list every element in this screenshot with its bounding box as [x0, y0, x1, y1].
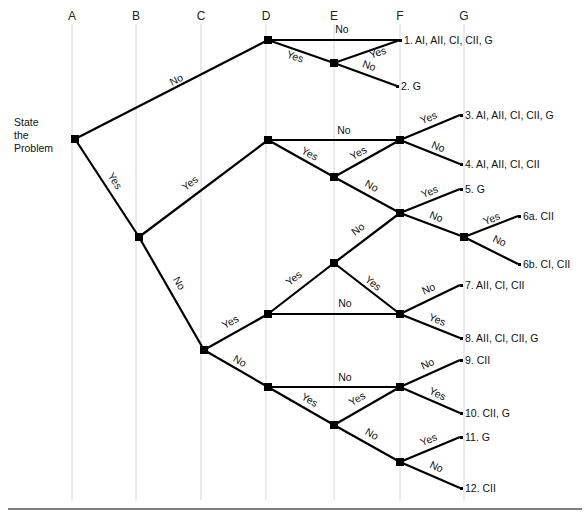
- decision-node-square-icon: [396, 209, 404, 217]
- decision-node-square-icon: [264, 383, 272, 391]
- leaf-endpoint: [460, 359, 463, 362]
- outcome-label: 3. AI, AII, CI, CII, G: [465, 109, 554, 121]
- leaf-endpoint: [399, 39, 402, 42]
- decision-node-square-icon: [460, 233, 468, 241]
- edge-label-no: No: [420, 280, 437, 297]
- leaf-endpoint: [460, 487, 463, 490]
- leaf-endpoint: [460, 436, 463, 439]
- leaf-endpoint: [518, 263, 521, 266]
- leaf-endpoint: [460, 163, 463, 166]
- edge-label-no: No: [428, 208, 445, 224]
- decision-tree-diagram: ABCDEFG NoNoYesYesNoYesYesNoYesYesYesNoN…: [0, 0, 587, 516]
- edge-label-no: No: [337, 124, 351, 136]
- edge-label-no: No: [338, 371, 352, 383]
- column-label-g: G: [459, 9, 468, 23]
- decision-node-square-icon: [396, 383, 404, 391]
- outcome-label: 9. CII: [465, 354, 490, 366]
- column-label-d: D: [262, 9, 271, 23]
- edge-label-no: No: [363, 177, 381, 194]
- outcome-label: 4. AI, AII, CI, CII: [465, 158, 540, 170]
- edge-label-yes: Yes: [106, 170, 125, 191]
- outcome-label: 8. AII, CI, CII, G: [465, 332, 539, 344]
- edge-label-no: No: [419, 355, 436, 372]
- tree-edge: [334, 140, 400, 177]
- edge-label-no: No: [171, 274, 188, 292]
- tree-edge: [268, 263, 334, 314]
- tree-edge: [334, 213, 400, 263]
- decision-node-square-icon: [330, 173, 338, 181]
- edge-label-yes: Yes: [347, 389, 368, 408]
- column-label-a: A: [68, 9, 76, 23]
- leaf-endpoint: [460, 412, 463, 415]
- decision-node-square-icon: [264, 310, 272, 318]
- outcome-labels: 1. AI, AII, CI, CII, G2. G3. AI, AII, CI…: [396, 34, 570, 494]
- edge-label-yes: Yes: [418, 109, 438, 127]
- tree-edge: [139, 237, 204, 350]
- edge-label-no: No: [491, 232, 508, 249]
- tree-edge: [334, 387, 400, 425]
- outcome-label: 11. G: [465, 431, 490, 443]
- edge-label-no: No: [167, 71, 185, 88]
- tree-edge: [139, 140, 268, 237]
- column-label-e: E: [330, 9, 338, 23]
- leaf-endpoint: [460, 284, 463, 287]
- tree-edges: [75, 40, 518, 488]
- edge-label-yes: Yes: [179, 173, 200, 193]
- edge-label-no: No: [349, 220, 367, 238]
- edge-label-yes: Yes: [285, 48, 305, 65]
- edge-label-no: No: [361, 57, 378, 73]
- outcome-label: 5. G: [465, 183, 485, 195]
- outcome-label: 7. AII, CI, CII: [465, 279, 525, 291]
- leaf-endpoint: [460, 114, 463, 117]
- edge-label-yes: Yes: [363, 273, 384, 293]
- decision-node-square-icon: [396, 458, 404, 466]
- edge-label-yes: Yes: [418, 431, 438, 449]
- edge-label-yes: Yes: [220, 312, 241, 331]
- start-label-line: State: [14, 116, 39, 128]
- outcome-label: 1. AI, AII, CI, CII, G: [404, 34, 493, 46]
- decision-node-square-icon: [71, 135, 79, 143]
- decision-node-square-icon: [330, 259, 338, 267]
- decision-node-square-icon: [264, 136, 272, 144]
- leaf-endpoint: [396, 85, 399, 88]
- tree-edge: [75, 40, 268, 139]
- edge-label-no: No: [338, 297, 352, 309]
- edge-label-yes: Yes: [283, 268, 304, 288]
- start-label-line: the: [14, 129, 29, 141]
- decision-node-square-icon: [264, 36, 272, 44]
- edge-label-no: No: [363, 425, 381, 442]
- decision-nodes: [71, 36, 468, 466]
- column-label-b: B: [132, 9, 140, 23]
- column-labels: ABCDEFG: [68, 9, 469, 23]
- outcome-label: 6b. CI, CII: [523, 258, 570, 270]
- decision-node-square-icon: [200, 346, 208, 354]
- tree-edge: [75, 139, 139, 237]
- column-label-c: C: [197, 9, 206, 23]
- outcome-label: 10. CII, G: [465, 407, 510, 419]
- leaf-endpoint: [460, 337, 463, 340]
- column-label-f: F: [396, 9, 403, 23]
- start-label-line: Problem: [14, 142, 53, 154]
- decision-node-square-icon: [330, 59, 338, 67]
- start-label: State the Problem: [14, 116, 53, 154]
- outcome-label: 12. CII: [465, 482, 496, 494]
- column-guides: [72, 24, 464, 500]
- decision-node-square-icon: [396, 136, 404, 144]
- leaf-endpoint: [518, 215, 521, 218]
- decision-node-square-icon: [330, 421, 338, 429]
- tree-edge: [268, 140, 334, 177]
- tree-edge: [268, 387, 334, 425]
- outcome-label: 2. G: [401, 80, 421, 92]
- decision-node-square-icon: [135, 233, 143, 241]
- leaf-endpoint: [460, 188, 463, 191]
- decision-node-square-icon: [396, 310, 404, 318]
- edge-label-no: No: [335, 23, 349, 35]
- tree-edge: [400, 140, 460, 164]
- edge-label-no: No: [428, 458, 445, 475]
- outcome-label: 6a. CII: [523, 210, 554, 222]
